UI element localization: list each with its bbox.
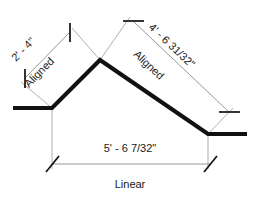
right-aligned-type-label: Aligned bbox=[132, 48, 167, 82]
extension-line-right-upper bbox=[100, 17, 130, 60]
bottom-linear-value: 5' - 6 7/32" bbox=[104, 142, 157, 154]
left-aligned-value: 2' - 4" bbox=[9, 35, 37, 63]
left-aligned-type-label: Aligned bbox=[22, 55, 56, 90]
extension-line-left-upper bbox=[72, 28, 100, 60]
bottom-linear-type-label: Linear bbox=[115, 178, 146, 190]
dimension-diagram: 2' - 4" Aligned 4' - 6 31/32" Aligned 5'… bbox=[0, 0, 256, 197]
